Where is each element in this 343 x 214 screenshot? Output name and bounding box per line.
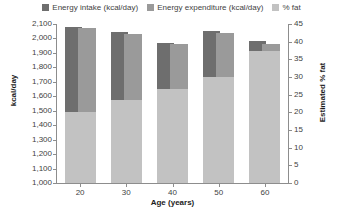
x-tick-mark — [126, 184, 127, 187]
bar-group — [203, 24, 234, 183]
x-tick-label: 20 — [60, 188, 100, 197]
right-tick-label: 45 — [294, 20, 310, 28]
left-tick-mark — [53, 53, 56, 54]
bar-group — [157, 24, 188, 183]
right-axis-ticklabels: 454035302520151050 — [294, 0, 312, 214]
right-tick-mark — [289, 130, 292, 131]
bar-percent-fat[interactable] — [203, 77, 234, 183]
bar-percent-fat[interactable] — [65, 112, 96, 183]
left-tick-label: 2,000 — [16, 34, 52, 42]
x-tick-mark — [219, 184, 220, 187]
left-tick-label: 1,900 — [16, 49, 52, 57]
right-tick-mark — [289, 183, 292, 184]
left-tick-label: 1,200 — [16, 150, 52, 158]
right-tick-mark — [289, 112, 292, 113]
legend-swatch-energy-expenditure — [147, 4, 154, 11]
right-tick-label: 30 — [294, 73, 310, 81]
right-axis-line — [288, 24, 289, 184]
bar-percent-fat[interactable] — [111, 100, 142, 183]
right-tick-mark — [289, 42, 292, 43]
legend-item-energy-expenditure: Energy expenditure (kcal/day) — [147, 3, 263, 12]
left-tick-mark — [53, 96, 56, 97]
bar-percent-fat[interactable] — [157, 89, 188, 183]
left-tick-mark — [53, 140, 56, 141]
left-tick-label: 1,600 — [16, 92, 52, 100]
left-tick-label: 1,800 — [16, 63, 52, 71]
legend-swatch-percent-fat — [272, 4, 279, 11]
left-tick-mark — [53, 111, 56, 112]
left-tick-label: 1,100 — [16, 165, 52, 173]
left-tick-mark — [53, 24, 56, 25]
left-tick-label: 1,500 — [16, 107, 52, 115]
x-tick-label: 60 — [245, 188, 285, 197]
left-tick-mark — [53, 125, 56, 126]
chart-container: Energy intake (kcal/day) Energy expendit… — [0, 0, 343, 214]
right-tick-label: 40 — [294, 38, 310, 46]
left-axis-title: kcal/day — [9, 61, 18, 121]
left-tick-mark — [53, 67, 56, 68]
right-tick-mark — [289, 59, 292, 60]
right-tick-label: 20 — [294, 108, 310, 116]
left-tick-mark — [53, 169, 56, 170]
left-tick-mark — [53, 154, 56, 155]
left-tick-label: 1,000 — [16, 179, 52, 187]
x-tick-mark — [80, 184, 81, 187]
legend-item-energy-intake: Energy intake (kcal/day) — [42, 3, 138, 12]
legend-label-energy-expenditure: Energy expenditure (kcal/day) — [157, 3, 263, 12]
right-tick-mark — [289, 77, 292, 78]
right-tick-mark — [289, 148, 292, 149]
left-tick-label: 1,400 — [16, 121, 52, 129]
right-tick-label: 5 — [294, 161, 310, 169]
left-tick-mark — [53, 183, 56, 184]
right-tick-mark — [289, 95, 292, 96]
left-tick-mark — [53, 38, 56, 39]
x-tick-label: 30 — [106, 188, 146, 197]
bar-group — [111, 24, 142, 183]
left-tick-label: 1,300 — [16, 136, 52, 144]
right-tick-mark — [289, 24, 292, 25]
right-tick-label: 25 — [294, 91, 310, 99]
right-tick-mark — [289, 165, 292, 166]
right-axis-title: Estimated % fat — [318, 53, 327, 133]
right-tick-label: 0 — [294, 179, 310, 187]
right-tick-label: 35 — [294, 55, 310, 63]
plot-area — [57, 24, 288, 183]
left-axis-ticklabels: 2,1002,0001,9001,8001,7001,6001,5001,400… — [14, 0, 52, 214]
left-tick-label: 1,700 — [16, 78, 52, 86]
x-tick-label: 50 — [199, 188, 239, 197]
left-tick-mark — [53, 82, 56, 83]
x-tick-mark — [265, 184, 266, 187]
bar-group — [65, 24, 96, 183]
x-axis-title: Age (years) — [56, 198, 289, 207]
bar-percent-fat[interactable] — [249, 51, 280, 184]
right-tick-label: 10 — [294, 144, 310, 152]
right-tick-label: 15 — [294, 126, 310, 134]
bar-group — [249, 24, 280, 183]
legend-label-energy-intake: Energy intake (kcal/day) — [52, 3, 138, 12]
x-tick-mark — [173, 184, 174, 187]
left-tick-label: 2,100 — [16, 20, 52, 28]
x-tick-label: 40 — [153, 188, 193, 197]
